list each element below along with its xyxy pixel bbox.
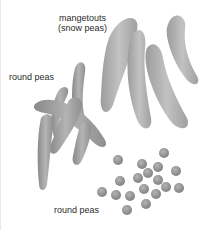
mangetout-pods [101,15,199,128]
figure-peas: mangetouts (snow peas) round peas round … [0,0,206,230]
label-mangetouts-line2: (snow peas) [58,23,107,33]
pea-illustration [1,0,206,230]
label-round-peas-loose: round peas [54,205,99,215]
loose-round-peas [97,148,184,215]
label-mangetouts: mangetouts (snow peas) [58,13,107,33]
label-mangetouts-line1: mangetouts [58,13,107,23]
label-round-peas-pods: round peas [9,72,54,82]
